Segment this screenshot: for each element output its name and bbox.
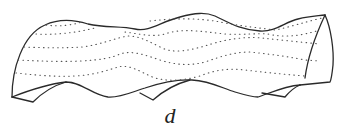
- dotted-line-5: [16, 66, 305, 80]
- dotted-line-3: [24, 36, 320, 51]
- surface-bottom-edge: [12, 80, 300, 97]
- fold-right: [262, 85, 300, 97]
- surface-right-inner: [305, 15, 325, 78]
- dotted-line-4: [18, 52, 320, 64]
- fold-left: [12, 82, 66, 102]
- figure-label: d: [160, 104, 180, 128]
- dotted-line-2: [36, 28, 320, 36]
